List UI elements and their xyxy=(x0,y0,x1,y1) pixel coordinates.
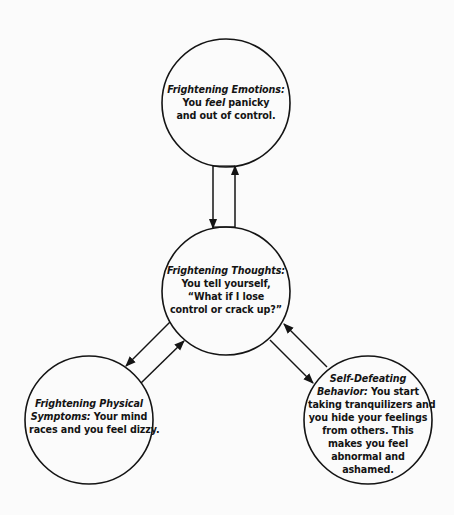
node-physical-line2: Symptoms: Your mind xyxy=(29,410,149,423)
node-behavior: Self-Defeating Behavior: You start takin… xyxy=(308,372,428,476)
node-behavior-title-cont: Behavior: xyxy=(317,386,368,397)
node-physical-line3: races and you feel dizzy. xyxy=(29,423,149,436)
node-behavior-line5: from others. This xyxy=(308,424,428,437)
arrow-physical-to-thoughts xyxy=(141,341,184,383)
node-physical-title: Frightening Physical xyxy=(29,397,149,410)
node-behavior-line4: you hide your feelings xyxy=(308,411,428,424)
text-emphasis: feel xyxy=(205,97,225,108)
node-behavior-line3: taking tranquilizers and xyxy=(308,398,428,411)
text-segment: You xyxy=(183,97,205,108)
text-segment: Your mind xyxy=(90,411,147,422)
node-behavior-line6: makes you feel xyxy=(308,437,428,450)
arrow-thoughts-to-physical xyxy=(126,322,170,366)
node-physical-title-cont: Symptoms: xyxy=(31,411,91,422)
node-behavior-line7: abnormal and xyxy=(308,450,428,463)
node-emotions: Frightening Emotions: You feel panicky a… xyxy=(166,83,286,122)
node-behavior-title: Self-Defeating xyxy=(308,372,428,385)
node-behavior-line2: Behavior: You start xyxy=(308,385,428,398)
node-thoughts-line3: control or crack up?” xyxy=(166,303,286,316)
node-behavior-line8: ashamed. xyxy=(308,463,428,476)
node-thoughts-line2: “What if I lose xyxy=(166,290,286,303)
node-emotions-title: Frightening Emotions: xyxy=(166,83,286,96)
node-physical: Frightening Physical Symptoms: Your mind… xyxy=(29,397,149,436)
node-emotions-line1: You feel panicky xyxy=(166,96,286,109)
node-thoughts: Frightening Thoughts: You tell yourself,… xyxy=(166,264,286,316)
node-thoughts-line1: You tell yourself, xyxy=(166,277,286,290)
text-segment: panicky xyxy=(225,97,269,108)
node-thoughts-title: Frightening Thoughts: xyxy=(166,264,286,277)
node-emotions-line2: and out of control. xyxy=(166,109,286,122)
text-segment: You start xyxy=(368,386,419,397)
